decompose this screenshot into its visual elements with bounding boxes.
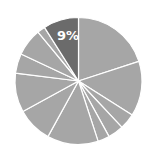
pie-chart: 9% — [0, 0, 155, 156]
pie-chart-svg: 9% — [0, 0, 155, 156]
slice-percent-label: 9% — [57, 28, 79, 43]
